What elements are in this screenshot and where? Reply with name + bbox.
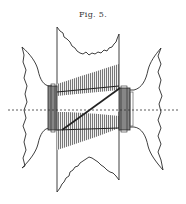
right-bell-profile (130, 48, 163, 170)
figure-illustration (0, 0, 186, 204)
right-coil (119, 86, 133, 132)
left-bell-profile (22, 47, 52, 168)
left-coil (48, 84, 57, 132)
lower-thread-band (57, 112, 119, 150)
